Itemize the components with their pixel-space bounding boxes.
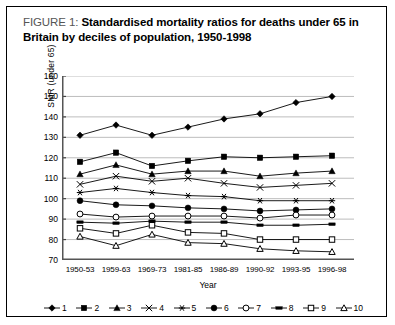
x-axis-label: Year	[62, 280, 354, 290]
data-point-marker-filled-circle	[329, 206, 335, 212]
data-point-marker-dash	[221, 221, 227, 224]
legend-label: 1	[62, 303, 67, 313]
legend-marker-open-circle	[237, 303, 255, 313]
y-axis-tick-label: 90	[49, 214, 58, 224]
legend-label: 8	[289, 303, 294, 313]
legend-marker-filled-circle	[205, 303, 223, 313]
data-point-marker-open-square	[293, 237, 298, 242]
data-point-marker-asterisk	[185, 193, 191, 198]
data-point-marker-open-square	[77, 226, 82, 231]
data-point-marker-filled-circle	[185, 205, 191, 211]
data-point-marker-open-circle	[113, 214, 119, 220]
y-axis-tick-label: 110	[44, 173, 58, 183]
data-point-marker-filled-square	[293, 154, 298, 159]
legend-item-10[interactable]: 10	[335, 303, 363, 313]
data-point-marker-dash	[329, 223, 335, 226]
data-point-marker-open-circle	[257, 215, 263, 221]
legend-label: 5	[192, 303, 197, 313]
legend-label: 9	[321, 303, 326, 313]
data-point-marker-cross-x	[77, 181, 83, 187]
legend-item-1[interactable]: 1	[43, 303, 67, 313]
data-point-marker-open-circle	[149, 213, 155, 219]
data-point-marker-open-triangle	[149, 231, 155, 237]
x-axis-tick-label: 1993-95	[282, 265, 311, 274]
data-point-marker-open-square	[257, 237, 262, 242]
series-1	[77, 93, 335, 138]
data-point-marker-open-square	[113, 231, 118, 236]
legend-label: 6	[224, 303, 229, 313]
legend-marker-cross-x	[140, 303, 158, 313]
x-axis-tick-label: 1990-92	[246, 265, 275, 274]
legend-item-4[interactable]: 4	[140, 303, 164, 313]
legend-item-6[interactable]: 6	[205, 303, 229, 313]
data-point-marker-filled-square	[82, 305, 87, 310]
legend-item-3[interactable]: 3	[108, 303, 132, 313]
data-point-marker-filled-square	[329, 153, 334, 158]
x-axis-tick-label: 1981-85	[174, 265, 203, 274]
y-axis-tick-label: 120	[44, 153, 58, 163]
data-point-marker-open-square	[329, 237, 334, 242]
data-point-marker-dash	[257, 224, 263, 227]
data-point-marker-open-circle	[329, 212, 335, 218]
legend-item-8[interactable]: 8	[270, 303, 294, 313]
y-axis-tick-label: 150	[44, 91, 58, 101]
y-axis-tick-label: 100	[44, 194, 58, 204]
legend-label: 3	[127, 303, 132, 313]
data-point-marker-filled-diamond	[293, 99, 299, 105]
y-axis-tick-label: 80	[49, 235, 58, 245]
chart-legend: 12345678910	[43, 303, 363, 313]
x-axis-tick-label: 1950-53	[66, 265, 95, 274]
figure-title: FIGURE 1: Standardised mortality ratios …	[23, 15, 373, 45]
data-point-marker-filled-diamond	[329, 93, 335, 99]
data-point-marker-open-circle	[185, 213, 191, 219]
y-axis-tick-label: 70	[49, 255, 58, 265]
data-point-marker-filled-circle	[77, 198, 83, 204]
legend-marker-open-square	[302, 303, 320, 313]
data-point-marker-filled-square	[77, 159, 82, 164]
figure-number-label: FIGURE 1:	[23, 16, 78, 28]
legend-marker-filled-square	[75, 303, 93, 313]
data-point-marker-filled-circle	[221, 206, 227, 212]
data-point-marker-filled-diamond	[49, 305, 55, 311]
x-axis-tick-label: 1959-63	[102, 265, 131, 274]
data-point-marker-dash	[276, 307, 282, 310]
data-point-marker-filled-circle	[257, 208, 263, 214]
series-5	[77, 186, 335, 204]
legend-marker-dash	[270, 303, 288, 313]
legend-label: 4	[159, 303, 164, 313]
data-point-marker-filled-square	[185, 158, 190, 163]
y-axis-tick-label: 130	[44, 132, 58, 142]
data-point-marker-asterisk	[113, 186, 119, 191]
legend-label: 2	[94, 303, 99, 313]
x-axis-tick-label: 1996-98	[318, 265, 347, 274]
series-8	[77, 220, 335, 227]
legend-item-7[interactable]: 7	[237, 303, 261, 313]
data-point-marker-filled-diamond	[113, 122, 119, 128]
legend-item-5[interactable]: 5	[173, 303, 197, 313]
data-point-marker-filled-circle	[211, 305, 217, 311]
chart-plot-area: SMR (under 65) Year 70809010011012013014…	[62, 76, 354, 260]
legend-marker-filled-diamond	[43, 303, 61, 313]
data-point-marker-filled-square	[257, 155, 262, 160]
data-point-marker-dash	[185, 221, 191, 224]
data-point-marker-asterisk	[178, 305, 184, 310]
data-point-marker-open-circle	[243, 305, 249, 311]
data-point-marker-open-circle	[221, 213, 227, 219]
data-point-marker-filled-square	[149, 163, 154, 168]
data-point-marker-dash	[113, 222, 119, 225]
legend-marker-asterisk	[173, 303, 191, 313]
data-point-marker-open-circle	[293, 212, 299, 218]
data-point-marker-open-square	[149, 223, 154, 228]
legend-item-9[interactable]: 9	[302, 303, 326, 313]
legend-item-2[interactable]: 2	[75, 303, 99, 313]
x-axis-tick-label: 1969-73	[138, 265, 167, 274]
data-point-marker-dash	[77, 221, 83, 224]
data-point-marker-filled-diamond	[185, 124, 191, 130]
data-point-marker-filled-diamond	[257, 111, 263, 117]
legend-marker-filled-triangle	[108, 303, 126, 313]
x-axis-tick-label: 1986-89	[210, 265, 239, 274]
data-point-marker-open-square	[185, 230, 190, 235]
legend-label: 7	[256, 303, 261, 313]
data-point-marker-open-square	[308, 305, 313, 310]
data-point-marker-dash	[293, 224, 299, 227]
